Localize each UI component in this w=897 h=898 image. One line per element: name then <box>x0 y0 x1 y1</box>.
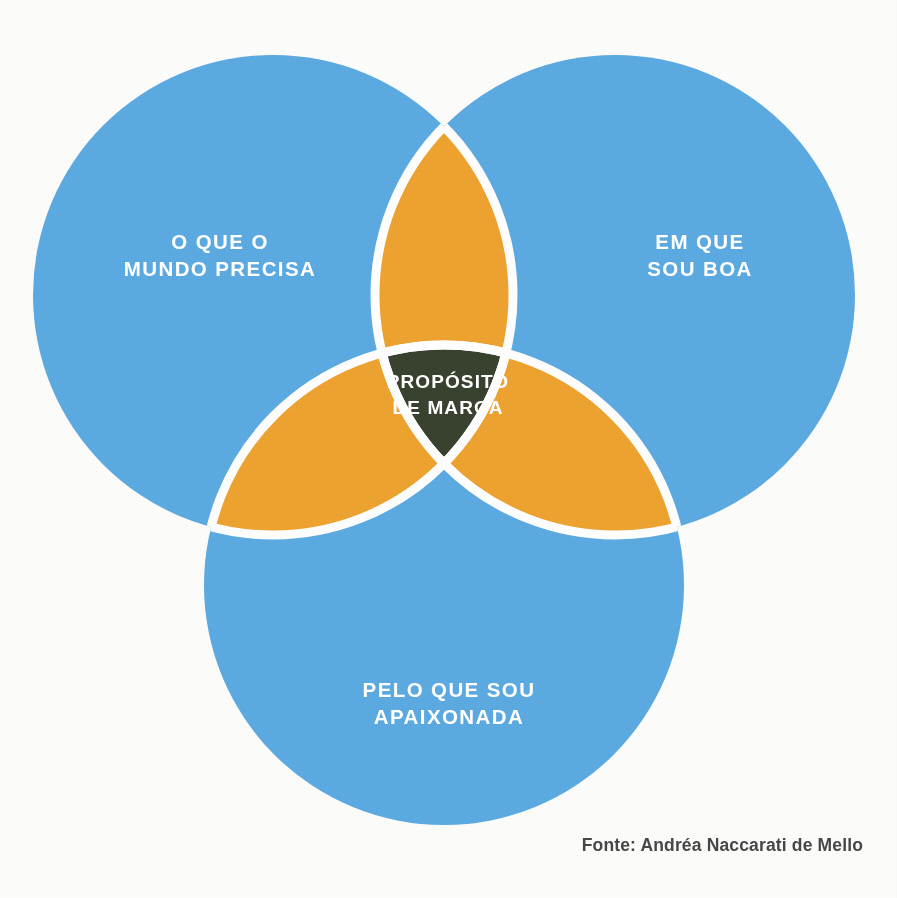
venn-diagram-graphic <box>0 0 897 898</box>
venn-label-world: O QUE O MUNDO PRECISA <box>55 228 385 282</box>
venn-diagram-stage: O QUE O MUNDO PRECISA EM QUE SOU BOA PEL… <box>0 0 897 898</box>
source-attribution: Fonte: Andréa Naccarati de Mello <box>582 835 863 856</box>
venn-label-center-purpose: PROPÓSITO DE MARCA <box>342 369 554 421</box>
venn-label-good: EM QUE SOU BOA <box>545 228 855 282</box>
venn-label-passion: PELO QUE SOU APAIXONADA <box>284 676 614 730</box>
